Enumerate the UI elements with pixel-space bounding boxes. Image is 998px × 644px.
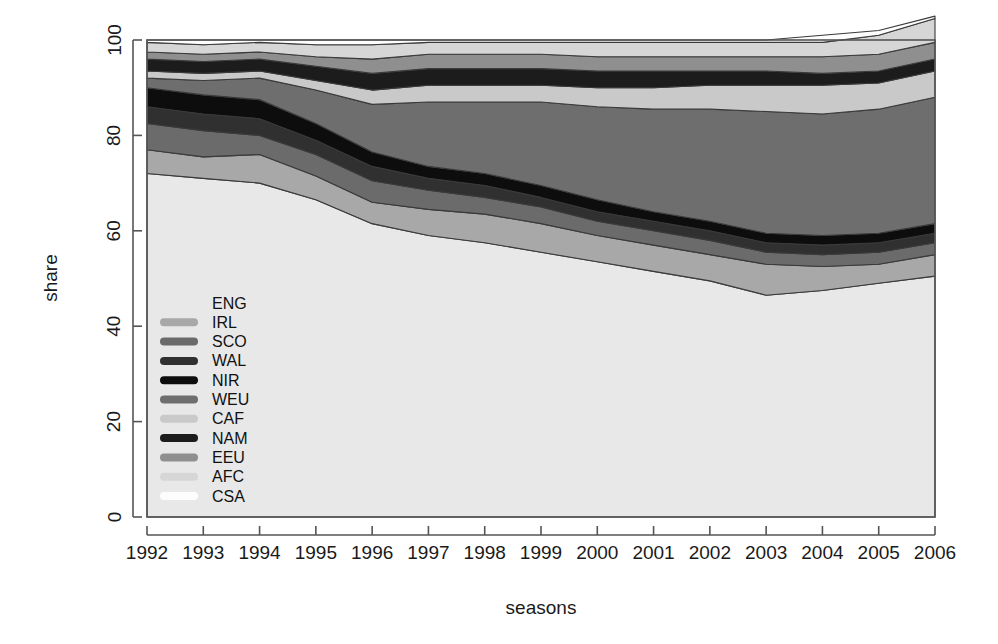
y-tick-label: 60 <box>104 220 125 241</box>
legend-swatch-eeu <box>160 453 198 461</box>
x-tick-label: 1993 <box>182 542 224 563</box>
x-tick-label: 2002 <box>689 542 731 563</box>
legend-swatch-sco <box>160 338 198 346</box>
legend-swatch-weu <box>160 396 198 404</box>
x-tick-label: 2004 <box>801 542 844 563</box>
legend-label-caf: CAF <box>212 410 244 427</box>
y-tick-label: 20 <box>104 411 125 432</box>
x-axis-title: seasons <box>506 597 577 618</box>
legend-label-nam: NAM <box>212 430 248 447</box>
stacked-area-series-group <box>147 16 935 517</box>
legend-label-sco: SCO <box>212 333 247 350</box>
legend-swatch-irl <box>160 318 198 326</box>
x-tick-label: 2003 <box>745 542 787 563</box>
x-tick-label: 1995 <box>295 542 337 563</box>
x-tick-label: 1992 <box>126 542 168 563</box>
stacked-area-chart: 020406080100 199219931994199519961997199… <box>0 0 998 644</box>
legend-swatch-caf <box>160 415 198 423</box>
x-tick-label: 1998 <box>464 542 506 563</box>
chart-canvas: 020406080100 199219931994199519961997199… <box>0 0 998 644</box>
y-axis-title: share <box>40 254 61 302</box>
x-tick-label: 1999 <box>520 542 562 563</box>
legend-label-eng: ENG <box>212 295 247 312</box>
x-tick-label: 1996 <box>351 542 393 563</box>
legend-label-eeu: EEU <box>212 449 245 466</box>
legend-label-weu: WEU <box>212 391 249 408</box>
x-tick-label: 2005 <box>858 542 900 563</box>
y-tick-label: 40 <box>104 316 125 337</box>
y-tick-label: 100 <box>104 24 125 56</box>
legend-swatch-afc <box>160 473 198 481</box>
legend-swatch-nir <box>160 376 198 384</box>
legend-label-csa: CSA <box>212 488 245 505</box>
x-tick-label: 2000 <box>576 542 618 563</box>
x-tick-label: 2006 <box>914 542 956 563</box>
legend-label-irl: IRL <box>212 314 237 331</box>
x-tick-label: 2001 <box>632 542 674 563</box>
legend-label-wal: WAL <box>212 352 246 369</box>
legend-label-nir: NIR <box>212 372 240 389</box>
x-tick-label: 1994 <box>238 542 281 563</box>
legend-swatch-eng <box>160 299 198 307</box>
legend-swatch-nam <box>160 434 198 442</box>
y-tick-label: 80 <box>104 125 125 146</box>
legend-label-afc: AFC <box>212 468 244 485</box>
x-tick-label: 1997 <box>407 542 449 563</box>
legend-swatch-csa <box>160 492 198 500</box>
y-tick-label: 0 <box>104 512 125 523</box>
legend-swatch-wal <box>160 357 198 365</box>
